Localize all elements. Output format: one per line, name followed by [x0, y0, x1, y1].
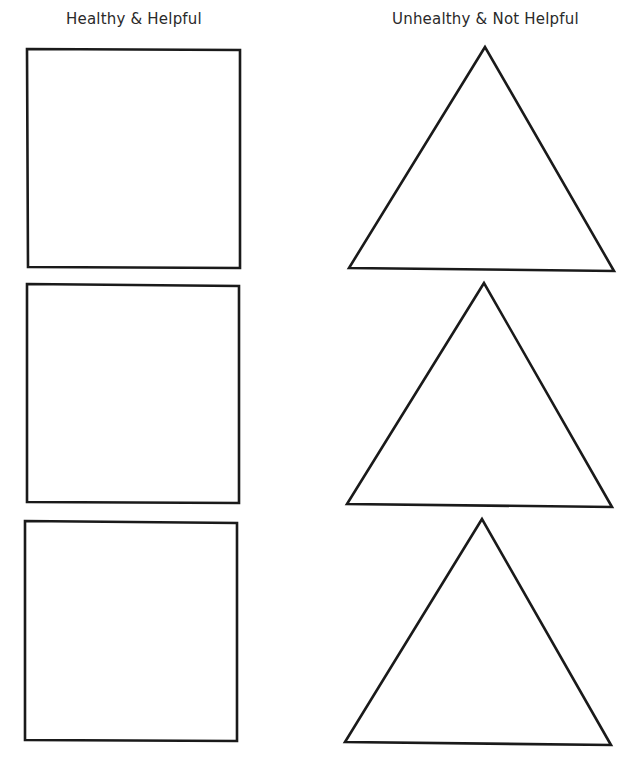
triangle-box-2	[347, 283, 612, 507]
triangle-box-3	[345, 519, 611, 745]
square-box-3	[25, 521, 237, 741]
square-box-1	[27, 49, 240, 268]
square-box-2	[27, 284, 239, 503]
triangle-box-1	[349, 47, 614, 271]
worksheet-shapes	[0, 0, 639, 769]
